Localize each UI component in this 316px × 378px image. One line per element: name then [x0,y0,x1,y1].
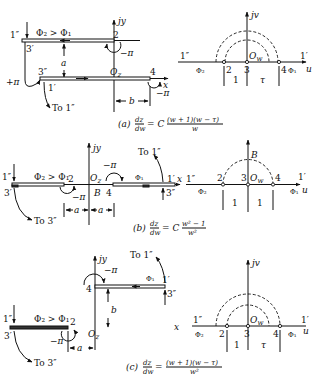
jv-label: jv [250,258,260,268]
jy-label: jy [97,254,108,264]
lower-electrode [40,77,150,80]
to-arrow-1dd [154,155,163,182]
w-origin: Ow [250,315,263,327]
dim-1: 1 [234,340,240,350]
w-plane-a: jv 1″ 1′ Φ₂ Φ₁ u Ow 2 3 4 1 τ [178,10,312,86]
w-1p: 1′ [301,315,309,325]
w-1p: 1′ [298,172,306,182]
angle-minus-pi-4: −π [104,265,119,275]
w-label-4: 4 [273,329,279,339]
angle-plus-pi: +π [6,77,21,87]
point-3dd: 3″ [167,289,177,299]
svg-text:dw: dw [143,368,153,376]
w-1dd: 1″ [180,51,190,61]
w-point-3 [246,183,249,186]
x-label: x [177,174,182,184]
point-2: 2 [68,174,74,184]
w-label-2: 2 [219,329,225,339]
figure-c: jy 4 −π Φ₁ 1′ 3″ To 1″ b Oz 1″ 3′ Φ₂ > Φ… [3,250,309,376]
z-plane-b: jy 1″ 3′ Φ₂ > Φ₁ 2 −π Oz B 4 −π Φ₁ 1′ x … [2,143,182,226]
point-1dd: 1″ [10,30,20,40]
svg-text:(b): (b) [133,223,146,233]
svg-text:=: = [155,362,163,372]
caption-c: (c) dz dw = (w + 1)(w − τ) w² [126,359,222,376]
w-point-2 [222,60,225,63]
angle-minus-pi-2: −π [120,48,135,58]
w-phi1: Φ₁ [290,188,299,196]
point-3p: 3′ [4,331,12,341]
w-1p: 1′ [300,51,308,61]
w-1dd: 1″ [193,315,203,325]
w-label-4: 4 [275,173,281,183]
point-B: B [93,188,101,198]
w-point-2 [225,324,228,327]
origin-label: Oz [88,329,99,341]
note-to-1dd: To 1″ [130,250,153,260]
w-label-3: 3 [244,329,250,339]
caption-a: (a) dz dw = C (w + 1)(w − τ) w [118,116,223,133]
w-label-4: 4 [281,65,287,75]
point-4: 4 [86,284,92,294]
point-2: 2 [113,30,119,40]
point-1dd: 1″ [2,172,12,182]
w-origin: Ow [250,173,263,185]
caption-b: (b) dz dw = C w² − 1 w² [133,220,206,237]
angle-minus-pi-2: −π [72,192,87,202]
to-arrow-3dd [14,331,32,362]
angle-minus-pi-2: −π [50,336,65,346]
svg-text:dz: dz [143,359,151,367]
point-3p: 3′ [4,188,12,198]
z-plane-c: jy 4 −π Φ₁ 1′ 3″ To 1″ b Oz 1″ 3′ Φ₂ > Φ… [3,250,179,368]
w-label-2: 2 [217,173,223,183]
u-label: u [302,185,308,195]
w-phi2: Φ₂ [195,331,204,339]
dim-tau: τ [260,75,266,85]
point-1p: 1′ [48,83,56,93]
w-point-4 [271,183,274,186]
point-3dd: 3″ [38,67,48,77]
w-plane-b: B 1″ 1′ Φ₂ Φ₁ u Ow 2 3 4 1 1 [186,140,308,212]
point-1p: 1′ [162,275,170,285]
svg-text:w² − 1: w² − 1 [182,220,206,228]
dim-tau: τ [261,340,267,350]
w-point-B: B [250,150,258,160]
w-point-4 [278,324,281,327]
svg-text:(a): (a) [118,119,131,129]
w-point-2 [221,183,224,186]
w-label-2: 2 [226,65,232,75]
u-label: u [303,326,309,336]
w-phi2: Φ₂ [196,67,205,75]
dim-a: a [77,343,82,353]
figure-a: jy 1″ 3′ Φ₂ > Φ₁ 2 −π a x 3″ 1′ Oz [6,10,312,133]
dim-1-left: 1 [232,198,238,208]
dim-b: b [129,96,135,106]
x-label: x [174,322,179,332]
note-to-3dd: To 3″ [34,358,57,368]
svg-text:w: w [192,125,198,133]
lower-electrode [10,326,68,329]
svg-text:dw: dw [135,125,145,133]
note-to-1dd: To 1″ [138,147,161,157]
to-arrow-3dd [14,188,32,220]
point-4: 4 [150,67,156,77]
angle-minus-pi-4: −π [103,160,118,170]
upper-electrode [95,285,165,288]
svg-text:w²: w² [188,229,197,237]
conformal-mapping-diagram: jy 1″ 3′ Φ₂ > Φ₁ 2 −π a x 3″ 1′ Oz [0,0,316,378]
svg-text:= C: = C [162,223,179,233]
left-electrode [12,183,64,186]
flux-right: Φ₁ [135,174,144,182]
point-3dd: 3″ [166,188,176,198]
right-edge [143,185,149,187]
dim-a-right: a [98,205,103,215]
svg-text:(w + 1)(w − τ): (w + 1)(w − τ) [166,359,218,367]
origin-label: Oz [90,173,101,185]
dim-1-right: 1 [257,198,263,208]
w-plane-c: jv 1″ 1′ Φ₂ Φ₁ u Ow 2 3 4 1 τ [192,258,309,352]
svg-text:dz: dz [150,220,158,228]
dim-a-left: a [74,205,79,215]
jy-label: jy [116,16,127,26]
w-phi1: Φ₁ [288,67,297,75]
figure-b: jy 1″ 3′ Φ₂ > Φ₁ 2 −π Oz B 4 −π Φ₁ 1′ x … [2,140,308,237]
w-phi2: Φ₂ [198,188,207,196]
